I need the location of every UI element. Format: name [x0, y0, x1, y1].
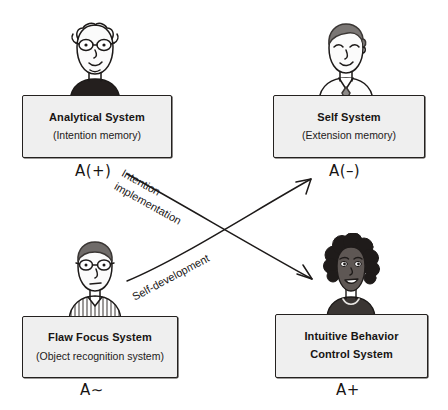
avatar-bald-man-glasses: [62, 17, 128, 101]
system-title-line1: Intuitive Behavior: [304, 328, 398, 346]
system-subtitle: (Extension memory): [302, 129, 396, 142]
system-subtitle: (Intention memory): [53, 129, 141, 142]
system-title: Intuitive Behavior Control System: [304, 328, 398, 363]
system-title: Flaw Focus System: [48, 331, 152, 345]
system-subtitle: (Object recognition system): [36, 350, 164, 363]
system-box-analytical[interactable]: Analytical System (Intention memory): [22, 95, 172, 158]
system-title-line2: Control System: [304, 346, 398, 364]
arrow-label-line1: Self-development: [130, 252, 211, 303]
diagram-canvas: Intention implementation Self-developmen…: [0, 0, 448, 410]
system-box-self[interactable]: Self System (Extension memory): [273, 95, 425, 158]
system-box-intuitive-behavior[interactable]: Intuitive Behavior Control System: [275, 314, 428, 378]
system-box-flaw-focus[interactable]: Flaw Focus System (Object recognition sy…: [22, 316, 178, 378]
arrow-label-intention-implementation: Intention implementation: [112, 166, 192, 228]
avatar-man-necktie: [313, 17, 379, 101]
avatar-man-glasses-striped-shirt: [62, 236, 128, 320]
affect-code-intuitive-behavior: A+: [336, 381, 360, 399]
affect-code-flaw-focus: A∼: [80, 381, 104, 399]
arrow-label-self-development: Self-development: [130, 252, 211, 303]
affect-code-analytical: A(+): [75, 162, 111, 180]
system-title: Self System: [317, 111, 380, 125]
affect-code-self: A(–): [329, 162, 360, 180]
system-title: Analytical System: [49, 111, 145, 125]
avatar-woman-curly-hair: [318, 233, 384, 317]
